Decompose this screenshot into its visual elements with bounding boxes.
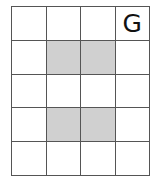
goal-cell: G bbox=[116, 7, 151, 41]
shaded-cell-r3-c1 bbox=[47, 108, 82, 142]
shaded-cell-r1-c2 bbox=[81, 41, 116, 75]
cell-r0-c1 bbox=[47, 7, 82, 41]
cell-r1-c3 bbox=[116, 41, 151, 75]
cell-r2-c1 bbox=[47, 75, 82, 109]
grid-board: G bbox=[11, 6, 150, 176]
cell-r2-c0 bbox=[12, 75, 47, 109]
cell-r4-c1 bbox=[47, 142, 82, 176]
cell-r2-c3 bbox=[116, 75, 151, 109]
shaded-cell-r3-c2 bbox=[81, 108, 116, 142]
shaded-cell-r1-c1 bbox=[47, 41, 82, 75]
cell-r2-c2 bbox=[81, 75, 116, 109]
cell-r0-c2 bbox=[81, 7, 116, 41]
cell-r4-c2 bbox=[81, 142, 116, 176]
cell-r0-c0 bbox=[12, 7, 47, 41]
cell-r4-c3 bbox=[116, 142, 151, 176]
cell-r1-c0 bbox=[12, 41, 47, 75]
cell-r3-c3 bbox=[116, 108, 151, 142]
cell-r4-c0 bbox=[12, 142, 47, 176]
cell-r3-c0 bbox=[12, 108, 47, 142]
